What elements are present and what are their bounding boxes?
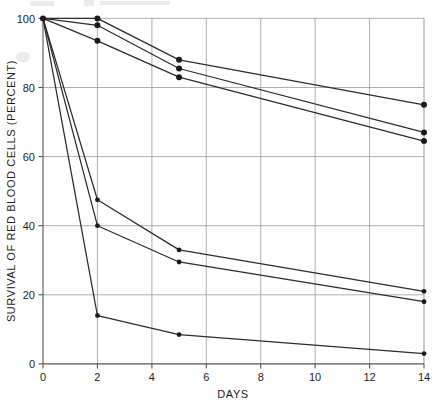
axis-lines (43, 16, 424, 364)
data-point (421, 138, 427, 144)
x-tick-labels: 0 2 4 6 8 10 12 14 (40, 371, 430, 383)
data-point (95, 197, 100, 202)
data-point (94, 15, 100, 21)
x-tick-label-4: 4 (149, 371, 155, 383)
x-axis-title: DAYS (217, 388, 249, 400)
data-point (95, 223, 100, 228)
x-tick-label-8: 8 (258, 371, 264, 383)
y-axis-ticks (39, 18, 44, 364)
series-group (43, 18, 426, 356)
series-line-4 (43, 18, 424, 291)
data-point (176, 57, 182, 63)
scan-artifacts (16, 0, 170, 62)
data-point (422, 289, 427, 294)
data-point (94, 38, 100, 44)
series-line-3 (43, 18, 424, 141)
data-point-origin (40, 15, 46, 21)
data-point (177, 260, 182, 265)
line-chart-svg: 100 80 60 40 20 0 0 2 4 6 8 10 12 14 DAY… (0, 0, 441, 402)
data-point (177, 247, 182, 252)
data-point (176, 66, 182, 72)
series-line-6 (43, 18, 424, 353)
data-point (421, 102, 427, 108)
x-tick-label-14: 14 (418, 371, 430, 383)
data-point (95, 313, 100, 318)
data-point (176, 74, 182, 80)
y-tick-label-0: 0 (29, 358, 35, 370)
data-point (421, 129, 427, 135)
y-tick-labels: 100 80 60 40 20 0 (17, 13, 35, 371)
series-layer (40, 15, 427, 356)
y-tick-label-100: 100 (17, 13, 35, 25)
y-tick-label-80: 80 (23, 82, 35, 94)
y-axis-title: SURVIVAL OF RED BLOOD CELLS (PERCENT) (5, 60, 17, 322)
gridlines-vertical (97, 18, 424, 364)
x-tick-label-10: 10 (309, 371, 321, 383)
y-tick-label-40: 40 (23, 220, 35, 232)
x-tick-label-2: 2 (94, 371, 100, 383)
data-point (94, 22, 100, 28)
x-axis-ticks (43, 364, 424, 369)
data-point (177, 332, 182, 337)
y-tick-label-60: 60 (23, 151, 35, 163)
gridlines-horizontal (43, 18, 424, 294)
series-group (43, 18, 426, 293)
data-point (422, 351, 427, 356)
series-line-2 (43, 18, 424, 132)
y-tick-label-20: 20 (23, 289, 35, 301)
x-tick-label-0: 0 (40, 371, 46, 383)
x-tick-label-12: 12 (363, 371, 375, 383)
chart-container: 100 80 60 40 20 0 0 2 4 6 8 10 12 14 DAY… (0, 0, 441, 402)
series-group (43, 18, 426, 304)
x-tick-label-6: 6 (203, 371, 209, 383)
data-point (422, 299, 427, 304)
